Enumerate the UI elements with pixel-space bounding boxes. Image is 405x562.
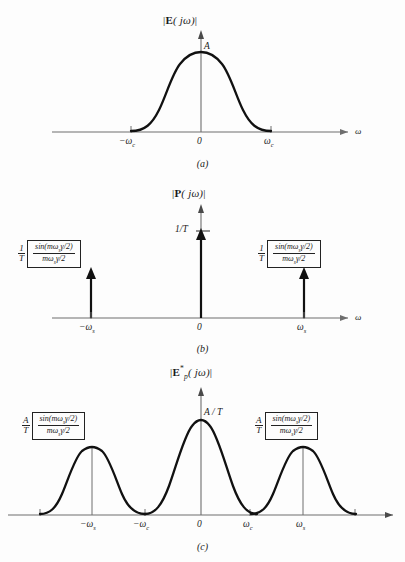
panel-a-caption: (a) (0, 158, 405, 169)
prefix-fraction-right-c: A T (255, 416, 263, 436)
x-axis-arrow-a (340, 129, 348, 135)
peak-label-c: A / T (204, 407, 222, 417)
xtick-label-c-0: −ωs (80, 519, 96, 531)
xtick-label-c-3: ωc (243, 519, 253, 531)
sinc-bracket-right-c: sin(mωsγ/2) mωsγ/2 (265, 412, 319, 440)
xtick-label-c-4: ωs (296, 519, 305, 531)
panel-b: |P( jω)| 1/T (0, 185, 405, 365)
peak-label-a: A (204, 41, 210, 51)
side-expression-right-b: 1 T sin(mωsγ/2) mωsγ/2 (258, 240, 321, 268)
prefix-fraction-left-b: 1 T (18, 244, 25, 264)
panel-c-caption: (c) (0, 541, 405, 552)
prefix-fraction-left-c: A T (22, 416, 30, 436)
panel-c-plot (0, 360, 405, 562)
y-axis-arrow-b (198, 204, 204, 213)
amplitude-label-1-over-T: 1/T (175, 224, 188, 234)
xtick-label-a-0: −ωc (119, 136, 135, 148)
xtick-label-a-1: 0 (197, 136, 202, 146)
xtick-label-b-1: 0 (197, 322, 202, 332)
side-expression-left-b: 1 T sin(mωsγ/2) mωsγ/2 (18, 240, 81, 268)
x-axis-label-b: ω (355, 312, 361, 322)
figure-sampled-spectra: |E( jω)| A −ωc 0 ωc ω (a) (0, 0, 405, 562)
x-axis-arrow-b (340, 315, 348, 321)
impulse-plus-ws-arrow-b (299, 267, 309, 279)
xtick-label-b-0: −ωs (79, 322, 95, 334)
impulse-zero-arrow-b (196, 228, 206, 240)
panel-b-caption: (b) (0, 343, 405, 354)
panel-a: |E( jω)| A −ωc 0 ωc ω (a) (0, 0, 405, 185)
xtick-label-c-1: −ωc (133, 519, 149, 531)
sinc-bracket-right-b: sin(mωsγ/2) mωsγ/2 (267, 240, 321, 268)
prefix-fraction-right-b: 1 T (258, 244, 265, 264)
side-expression-right-c: A T sin(mωsγ/2) mωsγ/2 (255, 412, 318, 440)
y-axis-arrow-a (198, 30, 204, 39)
panel-b-plot (0, 185, 405, 365)
y-axis-arrow-c (198, 387, 204, 396)
impulse-minus-ws-arrow-b (86, 267, 96, 279)
xtick-label-b-2: ωs (297, 322, 306, 334)
xtick-label-a-2: ωc (264, 136, 274, 148)
x-axis-label-a: ω (355, 126, 361, 136)
sinc-bracket-left-c: sin(mωsγ/2) mωsγ/2 (32, 412, 86, 440)
panel-c: |E*p( jω)| A / T (0, 360, 405, 562)
sinc-bracket-left-b: sin(mωsγ/2) mωsγ/2 (27, 240, 81, 268)
side-expression-left-c: A T sin(mωsγ/2) mωsγ/2 (22, 412, 85, 440)
xtick-label-c-2: 0 (197, 519, 202, 529)
x-axis-arrow-c (385, 512, 393, 518)
